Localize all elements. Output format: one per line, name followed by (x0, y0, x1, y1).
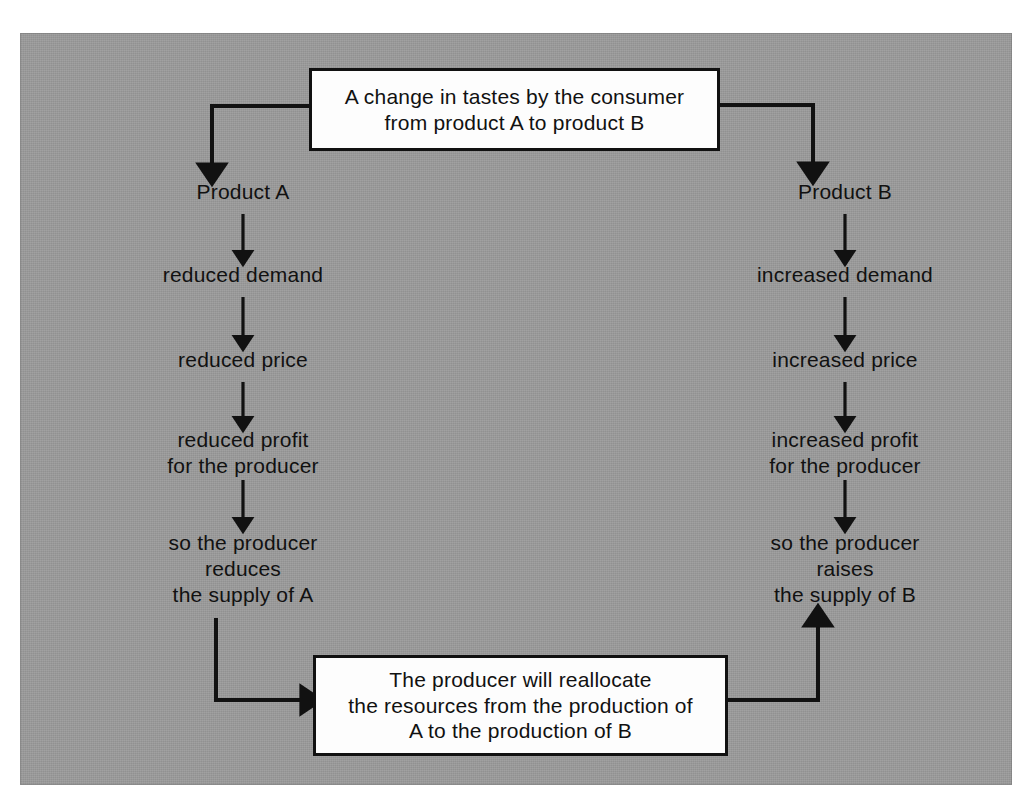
node-increased-price: increased price (772, 347, 917, 373)
connector-reduces-supply-to-bottom-box (216, 618, 305, 700)
box-bottom-line-3: A to the production of B (348, 718, 693, 744)
box-top-line-1: A change in tastes by the consumer (345, 84, 685, 110)
node-product-b: Product B (798, 179, 892, 205)
connector-top-box-to-product-a (212, 106, 309, 168)
box-bottom-line-2: the resources from the production of (348, 693, 693, 719)
node-product-a: Product A (197, 179, 290, 205)
node-reduced-profit: reduced profit for the producer (167, 427, 318, 479)
diagram-page: A change in tastes by the consumer from … (0, 0, 1036, 803)
box-top-line-2: from product A to product B (345, 110, 685, 136)
node-increased-demand: increased demand (757, 262, 933, 288)
node-producer-reduces-supply: so the producer reduces the supply of A (169, 530, 318, 608)
reallocate-resources-box: The producer will reallocate the resourc… (313, 655, 728, 756)
change-in-tastes-box: A change in tastes by the consumer from … (309, 68, 720, 151)
connector-top-box-to-product-b (714, 105, 813, 167)
node-reduced-price: reduced price (178, 347, 308, 373)
box-bottom-line-1: The producer will reallocate (348, 667, 693, 693)
node-producer-raises-supply: so the producer raises the supply of B (771, 530, 920, 608)
connector-bottom-box-to-raises-supply (722, 622, 818, 700)
node-increased-profit: increased profit for the producer (769, 427, 920, 479)
node-reduced-demand: reduced demand (163, 262, 323, 288)
